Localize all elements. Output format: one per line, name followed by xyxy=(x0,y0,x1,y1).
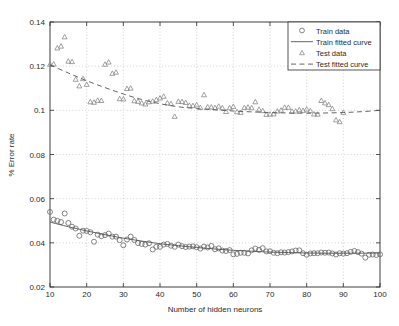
legend-label: Test fitted curve xyxy=(316,60,369,69)
legend-label: Train data xyxy=(316,27,350,36)
x-axis-tick-label: 30 xyxy=(119,290,128,299)
x-axis-tick-label: 10 xyxy=(46,290,55,299)
x-axis-tick-label: 40 xyxy=(156,290,165,299)
y-axis-tick-label: 0.04 xyxy=(29,239,45,248)
legend-label: Test data xyxy=(316,49,347,58)
y-axis-title: % Error rate xyxy=(7,133,16,177)
x-axis-title: Number of hidden neurons xyxy=(168,305,263,314)
y-axis-tick-label: 0.12 xyxy=(29,62,45,71)
chart-svg: 102030405060708090100 0.020.040.060.080.… xyxy=(0,0,399,326)
y-axis-tick-label: 0.08 xyxy=(29,151,45,160)
x-axis-tick-label: 60 xyxy=(229,290,238,299)
x-axis-tick-label: 70 xyxy=(266,290,275,299)
chart-legend[interactable]: Train dataTrain fitted curveTest dataTes… xyxy=(288,22,380,70)
y-axis-tick-label: 0.1 xyxy=(34,106,46,115)
x-axis-tick-label: 90 xyxy=(339,290,348,299)
y-axis-tick-label: 0.02 xyxy=(29,283,45,292)
y-axis-tick-label: 0.14 xyxy=(29,18,45,27)
x-axis-tick-label: 80 xyxy=(302,290,311,299)
y-axis-tick-label: 0.06 xyxy=(29,195,45,204)
x-axis-tick-label: 20 xyxy=(82,290,91,299)
x-axis-tick-label: 50 xyxy=(192,290,201,299)
chart-figure: 102030405060708090100 0.020.040.060.080.… xyxy=(0,0,399,326)
x-axis-tick-label: 100 xyxy=(373,290,387,299)
legend-label: Train fitted curve xyxy=(316,38,372,47)
